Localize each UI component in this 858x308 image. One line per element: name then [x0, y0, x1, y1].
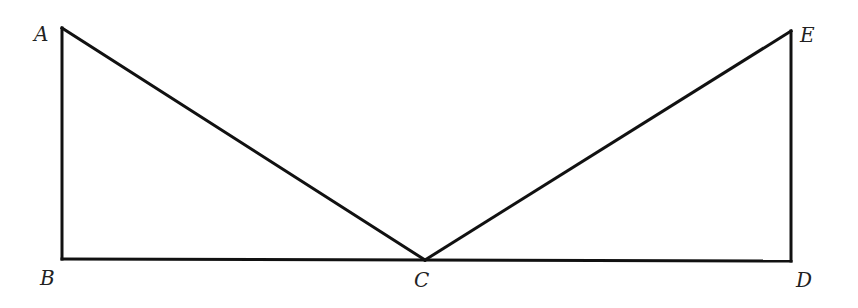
point-label-a: A: [32, 22, 48, 46]
point-label-b: B: [39, 266, 55, 290]
point-label-e: E: [799, 23, 815, 47]
geometry-diagram: A B C D E: [0, 0, 858, 308]
segment-cd: [425, 260, 791, 261]
point-label-c: C: [414, 268, 429, 292]
segment-bc: [62, 259, 425, 260]
point-label-d: D: [795, 268, 812, 292]
segment-ce: [425, 31, 791, 260]
diagram-svg: A B C D E: [0, 0, 858, 308]
segment-ac: [62, 28, 425, 260]
